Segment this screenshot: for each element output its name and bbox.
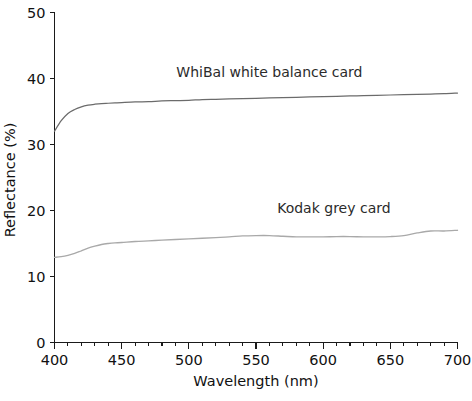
x-tick-label-600: 600 [309, 352, 337, 368]
y-tick-label-20: 20 [27, 203, 45, 219]
y-tick-label-10: 10 [27, 269, 45, 285]
curve-kodak [55, 230, 458, 257]
x-tick-label-400: 400 [41, 352, 69, 368]
x-tick-label-500: 500 [175, 352, 203, 368]
x-tick-label-550: 550 [242, 352, 270, 368]
series-label-whibal: WhiBal white balance card [176, 64, 362, 80]
y-tick-label-0: 0 [36, 335, 45, 351]
y-tick-label-50: 50 [27, 5, 45, 21]
x-tick-label-700: 700 [444, 352, 472, 368]
x-tick-label-450: 450 [108, 352, 136, 368]
y-tick-label-40: 40 [27, 71, 45, 87]
series-label-kodak: Kodak grey card [277, 200, 390, 216]
x-axis-title: Wavelength (nm) [193, 373, 318, 389]
reflectance-chart-figure: 01020304050400450500550600650700 WhiBal … [0, 0, 472, 401]
axis-ticks [50, 13, 458, 349]
curve-whibal [55, 93, 458, 131]
y-axis-title: Reflectance (%) [2, 123, 18, 238]
axis-tick-labels: 01020304050400450500550600650700 [27, 5, 471, 368]
series-annotations: WhiBal white balance cardKodak grey card [176, 64, 390, 216]
axes [55, 13, 458, 343]
y-tick-label-30: 30 [27, 137, 45, 153]
x-tick-label-650: 650 [376, 352, 404, 368]
data-series-curves [55, 93, 458, 257]
chart-canvas: 01020304050400450500550600650700 WhiBal … [0, 0, 472, 401]
axis-lines [55, 13, 458, 343]
